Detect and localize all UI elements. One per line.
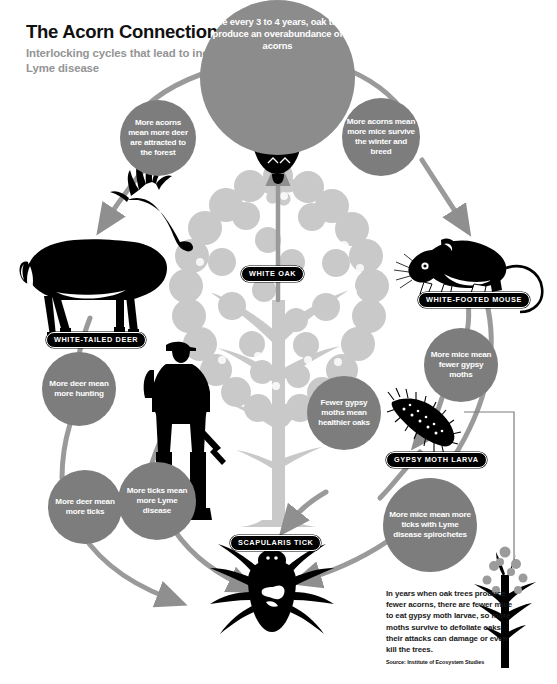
node-healthier-oaks[interactable]: Fewer gypsy moths mean healthier oaks: [307, 376, 381, 450]
node-healthier-oaks-label: Fewer gypsy moths mean healthier oaks: [307, 398, 381, 428]
node-more-ticks-lyme-label: More mice mean more ticks with Lyme dise…: [383, 510, 477, 540]
node-mice-survive[interactable]: More acorns mean more mice survive the w…: [342, 98, 420, 176]
footnote-source: Source: Institute of Ecosystem Studies: [386, 659, 514, 667]
footnote: In years when oak trees produce fewer ac…: [386, 588, 514, 667]
label-white-oak: WHITE OAK: [241, 266, 304, 282]
label-scapularis-tick: SCAPULARIS TICK: [230, 535, 321, 551]
label-white-tailed-deer: WHITE-TAILED DEER: [46, 332, 146, 348]
white-tailed-deer-illustration: [19, 158, 193, 337]
node-fewer-moths-label: More mice mean fewer gypsy moths: [424, 350, 498, 380]
node-mice-survive-label: More acorns mean more mice survive the w…: [342, 117, 420, 156]
node-ticks-lyme-label: More ticks mean more Lyme disease: [118, 486, 196, 516]
footnote-text: In years when oak trees produce fewer ac…: [386, 588, 514, 655]
node-more-hunting-label: More deer mean more hunting: [42, 379, 116, 399]
node-deer-attracted-label: More acorns mean more deer are attracted…: [120, 118, 196, 157]
node-deer-attracted[interactable]: More acorns mean more deer are attracted…: [120, 100, 196, 176]
infographic-canvas: The Acorn Connection Interlocking cycles…: [0, 0, 557, 684]
node-acorn-boom-label: Once every 3 to 4 years, oak trees produ…: [200, 16, 355, 52]
scapularis-tick-illustration: [210, 543, 334, 634]
node-more-hunting[interactable]: More deer mean more hunting: [42, 352, 116, 426]
node-fewer-moths[interactable]: More mice mean fewer gypsy moths: [424, 328, 498, 402]
label-white-footed-mouse: WHITE-FOOTED MOUSE: [418, 292, 530, 308]
node-deer-ticks[interactable]: More deer mean more ticks: [48, 470, 122, 544]
label-gypsy-moth-larva: GYPSY MOTH LARVA: [386, 452, 487, 468]
node-more-ticks-lyme[interactable]: More mice mean more ticks with Lyme dise…: [383, 478, 477, 572]
node-acorn-boom[interactable]: Once every 3 to 4 years, oak trees produ…: [200, 0, 355, 155]
node-ticks-lyme[interactable]: More ticks mean more Lyme disease: [118, 462, 196, 540]
node-deer-ticks-label: More deer mean more ticks: [48, 497, 122, 517]
